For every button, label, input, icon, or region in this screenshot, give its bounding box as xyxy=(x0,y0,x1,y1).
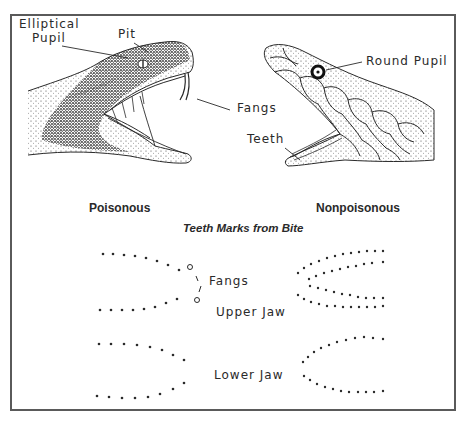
label-round-pupil: Round Pupil xyxy=(366,55,448,68)
label-upper-jaw: Upper Jaw xyxy=(216,306,286,319)
poisonous-snake-head xyxy=(28,41,230,163)
label-elliptical-pupil-line2: Pupil xyxy=(32,32,66,45)
nonpoisonous-bite-marks xyxy=(297,250,384,393)
heading-nonpoisonous: Nonpoisonous xyxy=(316,201,400,215)
label-elliptical-pupil-line1: Elliptical xyxy=(19,18,80,31)
heading-poisonous: Poisonous xyxy=(89,201,150,215)
label-fangs: Fangs xyxy=(237,102,277,115)
poisonous-bite-marks xyxy=(96,253,201,400)
label-bite-fangs: Fangs xyxy=(209,275,249,288)
label-lower-jaw: Lower Jaw xyxy=(214,369,283,382)
label-teeth: Teeth xyxy=(247,133,284,146)
label-pit: Pit xyxy=(118,28,136,41)
bite-marks-title: Teeth Marks from Bite xyxy=(183,222,303,234)
